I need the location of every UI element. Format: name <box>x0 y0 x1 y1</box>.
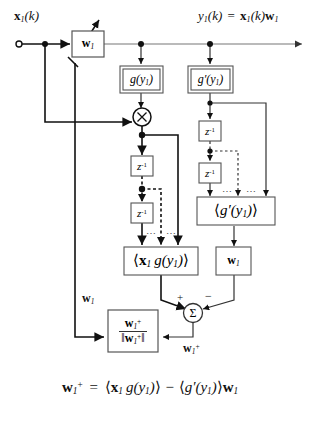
caption-equation: w1+ = ⟨x1 g(y1)⟩ − ⟨g′(y1)⟩w1 <box>62 378 238 396</box>
block-delay-left-1-label: z-1 <box>131 156 153 176</box>
junction-dot-left-delay <box>139 186 145 192</box>
ellipsis-left-label: ⋯ <box>146 228 157 239</box>
block-weight-top-label: w1 <box>72 31 104 57</box>
input-signal-label: x1(k) <box>14 8 39 24</box>
output-signal-label: y1(k) = x1(k)w1 <box>198 8 278 24</box>
junction-dot-multiplier-out <box>139 132 145 138</box>
minus-sign-label: − <box>205 289 212 304</box>
block-expectation-xg-label: ⟨x1 g(y1)⟩ <box>124 247 198 275</box>
junction-dot-g <box>138 41 144 47</box>
block-normalization-label: w1+ ‖w1+‖ <box>108 310 158 352</box>
block-nonlinearity-label: g(y1) <box>123 69 160 90</box>
ellipsis-right-col-1-label: ⋯ <box>222 186 233 197</box>
block-delay-right-1-label: z-1 <box>199 121 221 141</box>
block-weight-bottom-label: w1 <box>216 247 251 275</box>
block-summer-label: Σ <box>184 304 202 322</box>
block-delay-left-2-label: z-1 <box>131 203 153 223</box>
plus-sign-label: + <box>177 291 183 303</box>
block-delay-right-2-label: z-1 <box>199 163 221 183</box>
ellipsis-right-label: ⋯ <box>166 228 177 239</box>
block-nonlinearity-derivative-label: g′(y1) <box>191 69 230 90</box>
figure-canvas: x1(k) y1(k) = x1(k)w1 w1 g(y1) g′(y1) z-… <box>0 0 320 423</box>
block-expectation-gprime-label: ⟨g′(y1)⟩ <box>197 197 275 225</box>
feedback-weight-label: w1 <box>82 291 94 306</box>
ellipsis-right-col-2-label: ⋯ <box>246 186 257 197</box>
sum-output-label: w1+ <box>183 341 200 356</box>
junction-dot-gprime <box>207 41 213 47</box>
junction-dot-input <box>42 41 48 47</box>
junction-dot-gprime-out <box>207 100 212 105</box>
input-terminal <box>16 41 22 47</box>
junction-dot-right-delay <box>207 148 212 153</box>
